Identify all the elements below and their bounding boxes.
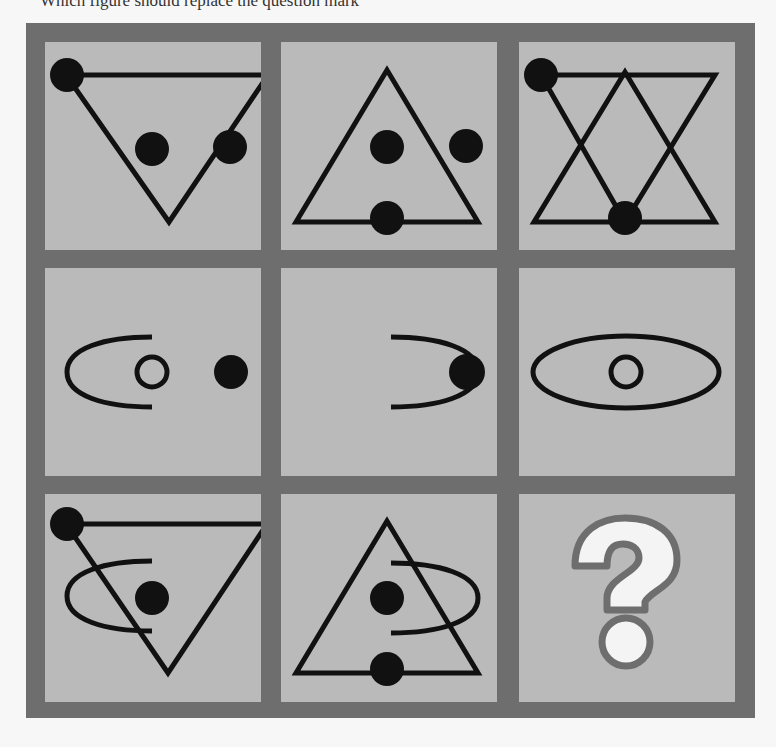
cell-r3-c3[interactable] [519, 494, 735, 702]
cell-r1-c2 [281, 42, 497, 250]
left-arc-figure [45, 268, 261, 476]
cell-r2-c2 [281, 268, 497, 476]
cell-r1-c3 [519, 42, 735, 250]
ellipse-figure [519, 268, 735, 476]
hollow-circle-icon [611, 357, 641, 387]
triangle-arc-figure [45, 494, 261, 702]
filled-dot-icon [449, 354, 485, 390]
cell-r3-c1 [45, 494, 261, 702]
cell-r2-c3 [519, 268, 735, 476]
inverted-triangle-figure [45, 42, 261, 250]
cell-r1-c1 [45, 42, 261, 250]
vertex-dot-icon [524, 58, 558, 92]
upright-triangle-figure [281, 42, 497, 250]
outer-dot-icon [213, 130, 247, 164]
edge-dot-icon [608, 201, 642, 235]
question-mark-icon [519, 494, 735, 702]
edge-dot-icon [370, 201, 404, 235]
triangle-right-arc-figure [281, 494, 497, 702]
hollow-circle-icon [137, 357, 167, 387]
puzzle-grid [26, 23, 755, 718]
inner-dot-icon [135, 581, 169, 615]
cell-r2-c1 [45, 268, 261, 476]
vertex-dot-icon [50, 58, 84, 92]
star-triangles-figure [519, 42, 735, 250]
vertex-dot-icon [50, 507, 84, 541]
outer-dot-icon [449, 129, 483, 163]
filled-dot-icon [214, 355, 248, 389]
inner-dot-icon [370, 581, 404, 615]
cell-r3-c2 [281, 494, 497, 702]
right-arc-figure [281, 268, 497, 476]
inner-dot-icon [135, 132, 169, 166]
question-caption: Which figure should replace the question… [40, 0, 359, 11]
edge-dot-icon [370, 652, 404, 686]
inner-dot-icon [370, 130, 404, 164]
